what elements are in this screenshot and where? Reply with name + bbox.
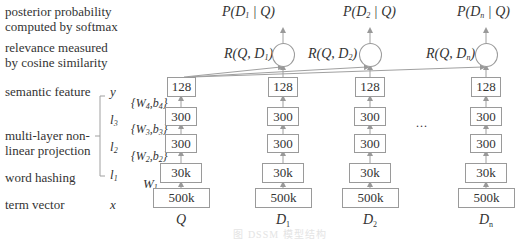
relevance-d2: R(Q, D2) bbox=[308, 46, 357, 62]
posterior-d2: P(D2 | Q) bbox=[343, 4, 396, 20]
ellipsis: ... bbox=[416, 116, 428, 131]
relevance-d1: R(Q, D1) bbox=[224, 46, 273, 62]
column-label-q: Q bbox=[161, 212, 201, 229]
column-label-dn: Dn bbox=[466, 212, 506, 229]
q-layer-30k: 30k bbox=[160, 163, 202, 183]
label-word-hashing: word hashing bbox=[5, 170, 75, 185]
label-relevance-line2: by cosine similarity bbox=[5, 55, 108, 70]
q-layer-500k: 500k bbox=[153, 188, 210, 208]
dn-layer-300b: 300 bbox=[470, 134, 502, 153]
column-label-d2: D2 bbox=[350, 212, 390, 229]
relevance-dn: R(Q, Dn) bbox=[426, 46, 475, 62]
d1-layer-300a: 300 bbox=[267, 107, 299, 126]
cosine-node-dn bbox=[475, 43, 498, 67]
dn-layer-300a: 300 bbox=[470, 107, 502, 126]
symbol-l2: l2 bbox=[110, 139, 118, 155]
d2-layer-30k: 30k bbox=[349, 163, 391, 183]
label-posterior-line2: computed by softmax bbox=[5, 19, 118, 34]
cosine-node-d1 bbox=[272, 43, 295, 67]
d1-layer-300b: 300 bbox=[267, 134, 299, 153]
label-multilayer-line1: multi-layer non- bbox=[5, 128, 90, 143]
symbol-l1: l1 bbox=[110, 167, 118, 183]
d1-layer-30k: 30k bbox=[262, 163, 304, 183]
d1-layer-128: 128 bbox=[268, 77, 298, 97]
posterior-dn: P(Dn | Q) bbox=[457, 4, 510, 20]
label-posterior-line1: posterior probability bbox=[5, 4, 112, 19]
label-relevance-line1: relevance measured bbox=[5, 40, 108, 55]
label-semantic-feature: semantic feature bbox=[5, 84, 91, 99]
symbol-x: x bbox=[110, 197, 116, 213]
weight-w4-b4: {W4,b4} bbox=[131, 96, 168, 111]
posterior-d1: P(D1 | Q) bbox=[222, 4, 275, 20]
cosine-node-d2 bbox=[359, 43, 382, 67]
d2-layer-300b: 300 bbox=[354, 134, 386, 153]
dn-layer-500k: 500k bbox=[458, 188, 515, 208]
symbol-l3: l3 bbox=[110, 112, 118, 128]
dn-layer-128: 128 bbox=[471, 77, 501, 97]
weight-w2-b2: {W2,b2} bbox=[131, 149, 168, 164]
symbol-y: y bbox=[110, 84, 116, 100]
label-term-vector: term vector bbox=[5, 197, 65, 212]
q-layer-300a: 300 bbox=[165, 107, 197, 126]
d1-layer-500k: 500k bbox=[255, 188, 312, 208]
d2-layer-300a: 300 bbox=[354, 107, 386, 126]
dn-layer-30k: 30k bbox=[465, 163, 507, 183]
weight-w3-b3: {W3,b3} bbox=[131, 122, 168, 137]
d2-layer-500k: 500k bbox=[342, 188, 399, 208]
q-layer-300b: 300 bbox=[165, 134, 197, 153]
d2-layer-128: 128 bbox=[355, 77, 385, 97]
label-multilayer-line2: linear projection bbox=[5, 143, 91, 158]
q-layer-128: 128 bbox=[167, 77, 196, 97]
figure-caption: 图 DSSM 模型结构 bbox=[215, 226, 345, 236]
